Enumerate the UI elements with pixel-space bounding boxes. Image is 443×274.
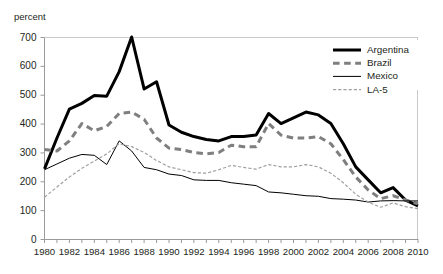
y-axis-title: percent (14, 11, 46, 22)
x-tick-label-2004: 2004 (333, 246, 355, 257)
x-tick-label-1992: 1992 (183, 246, 204, 257)
x-tick-label-1980: 1980 (34, 246, 55, 257)
y-tick-label-200: 200 (20, 176, 37, 187)
y-tick-label-600: 600 (20, 60, 37, 71)
y-tick-label-700: 700 (20, 32, 37, 43)
line-chart: percent 0100200300400500600700 198019821… (0, 0, 443, 274)
x-tick-label-1998: 1998 (258, 246, 279, 257)
x-tick-label-1994: 1994 (208, 246, 230, 257)
y-tick-label-300: 300 (20, 147, 37, 158)
x-tick-label-2002: 2002 (308, 246, 329, 257)
y-tick-label-0: 0 (31, 234, 37, 245)
x-tick-label-1984: 1984 (84, 246, 106, 257)
x-tick-label-1996: 1996 (233, 246, 254, 257)
x-tick-label-2006: 2006 (358, 246, 379, 257)
x-tick-label-1990: 1990 (158, 246, 179, 257)
x-tick-label-2000: 2000 (283, 246, 304, 257)
x-tick-label-2008: 2008 (382, 246, 403, 257)
x-tick-label-1982: 1982 (59, 246, 80, 257)
legend-label-argentina: Argentina (367, 44, 409, 55)
x-tick-label-2010: 2010 (407, 246, 428, 257)
y-tick-label-500: 500 (20, 89, 37, 100)
y-tick-label-400: 400 (20, 118, 37, 129)
y-tick-label-100: 100 (20, 205, 37, 216)
chart-container: percent 0100200300400500600700 198019821… (0, 0, 443, 274)
legend-label-la-5: LA-5 (367, 84, 388, 95)
x-tick-label-1988: 1988 (133, 246, 154, 257)
chart-legend: ArgentinaBrazilMexicoLA-5 (327, 40, 418, 95)
x-tick-label-1986: 1986 (109, 246, 130, 257)
legend-label-mexico: Mexico (367, 70, 399, 81)
legend-label-brazil: Brazil (367, 57, 392, 68)
